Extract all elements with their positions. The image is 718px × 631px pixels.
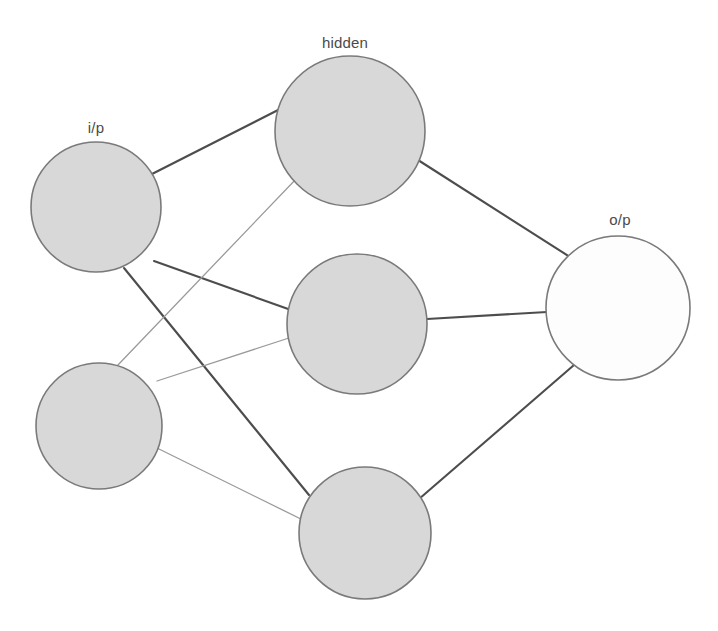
- node-o1: [546, 236, 690, 380]
- edge-i2-h2: [157, 337, 292, 381]
- input-layer: [31, 142, 162, 489]
- input-layer-label: i/p: [88, 119, 104, 136]
- edge-h1-o1: [418, 160, 570, 257]
- edge-h3-o1: [419, 365, 574, 499]
- neural-network-diagram: i/p hidden o/p: [0, 0, 718, 631]
- edge-i1-h2: [154, 261, 291, 310]
- output-layer: [546, 236, 690, 380]
- edge-i1-h1: [152, 108, 282, 174]
- edge-h2-o1: [427, 312, 547, 319]
- network-canvas: i/p hidden o/p: [0, 0, 718, 631]
- edge-i2-h3: [157, 448, 311, 524]
- hidden-layer-label: hidden: [322, 34, 368, 51]
- node-i1: [31, 142, 161, 272]
- node-h1: [275, 56, 425, 206]
- node-i2: [36, 363, 162, 489]
- nodes-group: [31, 56, 690, 599]
- node-h3: [299, 467, 431, 599]
- output-layer-label: o/p: [609, 211, 630, 228]
- node-h2: [287, 254, 427, 394]
